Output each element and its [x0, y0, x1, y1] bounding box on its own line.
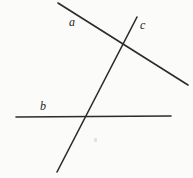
lines-canvas: [0, 0, 193, 178]
line-label-c: c: [140, 19, 145, 31]
geometry-figure: a b c: [0, 0, 193, 178]
line-c: [57, 17, 137, 172]
scan-speck: [94, 138, 97, 142]
line-b: [16, 116, 171, 117]
line-label-b: b: [40, 100, 46, 112]
line-label-a: a: [69, 16, 75, 28]
